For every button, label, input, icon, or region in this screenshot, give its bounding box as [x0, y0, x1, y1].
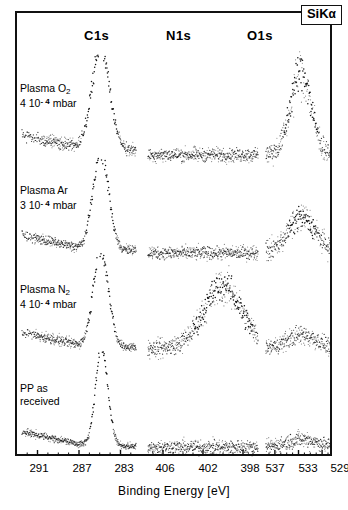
axis-title-binding-energy: Binding Energy [eV]: [0, 484, 348, 498]
tick-label-n1s-402: 402: [188, 462, 228, 474]
tick-label-o1s-529: 529: [320, 462, 348, 474]
tick-label-n1s-406: 406: [145, 462, 185, 474]
tick-label-c1s-291: 291: [19, 462, 59, 474]
spectra-plot: [0, 0, 348, 510]
figure-root: C1s N1s O1s SiKα Plasma O2 4 10- 4 mbar …: [0, 0, 348, 510]
tick-label-c1s-283: 283: [104, 462, 144, 474]
tick-label-c1s-287: 287: [62, 462, 102, 474]
